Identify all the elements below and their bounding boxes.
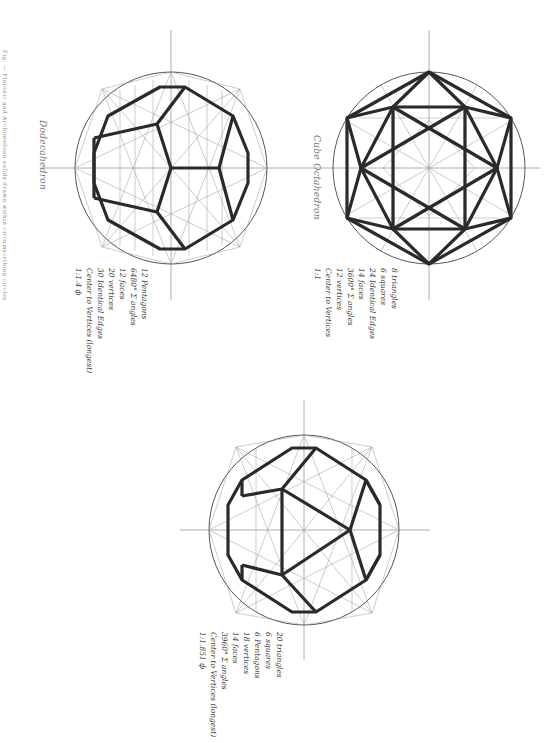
property-line: 6 squares bbox=[378, 268, 389, 339]
property-line: 30 Identical Edges bbox=[95, 268, 106, 373]
dodecahedron-figure bbox=[40, 30, 300, 300]
property-line: 6480° Σ angles bbox=[128, 268, 139, 373]
property-line: 14 faces bbox=[356, 268, 367, 339]
property-line: 3960° Σ angles bbox=[219, 632, 230, 737]
property-line: 8 triangles bbox=[389, 268, 400, 339]
property-line: 14 faces bbox=[230, 632, 241, 737]
property-line: 12 vertices bbox=[334, 268, 345, 339]
property-line: 6 squares bbox=[263, 632, 274, 737]
property-line: Center to Vertices (longest) bbox=[208, 632, 219, 737]
icosidodecahedron-figure bbox=[180, 400, 430, 660]
cuboctahedron-properties: 8 triangles 6 squares 24 Identical Edges… bbox=[312, 268, 400, 339]
property-line: 1:1.851 ф bbox=[197, 632, 208, 737]
property-line: 1:1.4 ф bbox=[73, 268, 84, 373]
property-line: 3600° Σ angles bbox=[345, 268, 356, 339]
property-line: 1:1 bbox=[312, 268, 323, 339]
property-line: 18 vertices bbox=[241, 632, 252, 737]
property-line: 6 Pentagons bbox=[252, 632, 263, 737]
icosidodecahedron-properties: 20 triangles 6 squares 6 Pentagons 18 ve… bbox=[197, 632, 285, 737]
property-line: 20 vertices bbox=[106, 268, 117, 373]
property-line: Center to Vertices (longest) bbox=[84, 268, 95, 373]
property-line: 12 faces bbox=[117, 268, 128, 373]
property-line: 24 Identical Edges bbox=[367, 268, 378, 339]
dodecahedron-properties: 12 Pentagons 6480° Σ angles 12 faces 20 … bbox=[73, 268, 150, 373]
figure-caption: Fig. — Platonic and Archimedean solids d… bbox=[2, 50, 8, 301]
property-line: 12 Pentagons bbox=[139, 268, 150, 373]
cuboctahedron-figure bbox=[300, 30, 540, 300]
property-line: 20 triangles bbox=[274, 632, 285, 737]
property-line: Center to Vertices bbox=[323, 268, 334, 339]
cuboctahedron-label: Cube Octahedron bbox=[312, 135, 322, 220]
dodecahedron-label: Dodecahedron bbox=[38, 120, 48, 190]
